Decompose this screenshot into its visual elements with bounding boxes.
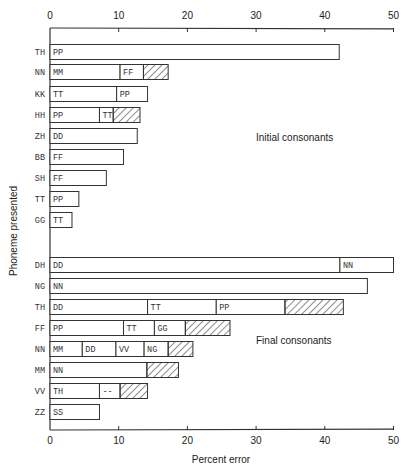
tick-label: 20 xyxy=(182,10,194,21)
segment-label: TT xyxy=(102,111,112,121)
row-label: ZH xyxy=(35,132,45,142)
stacked-bar-chart: 0102030405001020304050 THPPNNMMFFKKTTPPH… xyxy=(0,0,408,472)
segment-label: FF xyxy=(123,68,133,78)
segment-label: PP xyxy=(53,111,63,121)
tick-label: 50 xyxy=(388,435,400,446)
bar-row: ZHDD xyxy=(35,129,137,144)
segment-label: TH xyxy=(53,387,63,397)
bar-segment xyxy=(50,258,340,273)
bar-segment xyxy=(50,279,367,294)
segment-label: PP xyxy=(120,90,130,100)
tick-label: 50 xyxy=(388,10,400,21)
bar-segment xyxy=(50,45,339,60)
row-label: ZZ xyxy=(35,408,45,418)
segment-label: DD xyxy=(85,345,95,355)
hatched-segment xyxy=(185,321,230,336)
row-label: TH xyxy=(35,303,45,313)
segment-label: TT xyxy=(127,324,137,334)
segment-label: TT xyxy=(151,303,161,313)
row-label: KK xyxy=(35,90,46,100)
segment-label: NN xyxy=(53,366,63,376)
bars: THPPNNMMFFKKTTPPHHPPTTZHDDBBFFSHFFTTPPGG… xyxy=(35,45,394,420)
bar-row: TTPP xyxy=(35,192,79,207)
segment-label: VV xyxy=(119,345,130,355)
y-axis-title: Phoneme presented xyxy=(8,186,19,276)
row-label: VV xyxy=(35,387,46,397)
segment-label: PP xyxy=(53,195,63,205)
tick-label: 0 xyxy=(47,10,53,21)
tick-label: 10 xyxy=(113,10,125,21)
segment-label: FF xyxy=(53,174,63,184)
top-x-axis-line xyxy=(50,28,394,29)
tick-label: 0 xyxy=(47,435,53,446)
segment-label: GG xyxy=(157,324,167,334)
segment-label: NN xyxy=(53,282,63,292)
bar-row: THDDTTPP xyxy=(35,300,344,315)
tick-label: 40 xyxy=(319,435,331,446)
bottom-x-axis-line xyxy=(50,429,394,430)
hatched-segment xyxy=(147,363,179,378)
bar-row: BBFF xyxy=(35,150,124,165)
segment-label: PP xyxy=(53,48,63,58)
segment-label: NG xyxy=(147,345,157,355)
x-axis-title: Percent error xyxy=(192,454,251,465)
row-label: FF xyxy=(35,324,45,334)
bar-row: NNMMDDVVNG xyxy=(35,342,193,357)
tick-label: 20 xyxy=(182,435,194,446)
tick-label: 30 xyxy=(251,435,263,446)
row-label: MM xyxy=(35,366,45,376)
bar-row: GGTT xyxy=(35,213,72,228)
tick-label: 10 xyxy=(113,435,125,446)
row-label: TH xyxy=(35,48,45,58)
bar-row: NGNN xyxy=(35,279,368,294)
hatched-segment xyxy=(120,384,147,399)
hatched-segment xyxy=(285,300,343,315)
segment-label: TT xyxy=(53,216,63,226)
bar-segment xyxy=(50,300,148,315)
group-title: Final consonants xyxy=(256,335,332,346)
bar-row: THPP xyxy=(35,45,339,60)
segment-label: TT xyxy=(53,90,63,100)
segment-label: NN xyxy=(343,261,353,271)
segment-label: PP xyxy=(53,324,63,334)
row-label: NN xyxy=(35,68,45,78)
hatched-segment xyxy=(143,65,168,80)
segment-label: MM xyxy=(53,345,63,355)
bar-segment xyxy=(50,363,147,378)
bar-row: HHPPTT xyxy=(35,108,140,123)
segment-label: SS xyxy=(53,408,63,418)
tick-label: 30 xyxy=(251,10,263,21)
bar-row: FFPPTTGG xyxy=(35,321,230,336)
row-label: DH xyxy=(35,261,45,271)
bar-row: DHDDNN xyxy=(35,258,394,273)
segment-label: DD xyxy=(53,132,63,142)
row-label: GG xyxy=(35,216,45,226)
row-label: NN xyxy=(35,345,45,355)
row-label: SH xyxy=(35,174,45,184)
segment-label: DD xyxy=(53,303,63,313)
group-title: Initial consonants xyxy=(256,132,333,143)
hatched-segment xyxy=(168,342,193,357)
segment-label: DD xyxy=(53,261,63,271)
bar-row: ZZSS xyxy=(35,405,100,420)
segment-label: MM xyxy=(53,68,63,78)
bar-row: KKTTPP xyxy=(35,87,148,102)
segment-label: PP xyxy=(219,303,229,313)
row-label: TT xyxy=(35,195,45,205)
tick-label: 40 xyxy=(319,10,331,21)
bar-row: VVTH-- xyxy=(35,384,148,399)
bar-row: SHFF xyxy=(35,171,107,186)
row-label: BB xyxy=(35,153,45,163)
bar-row: NNMMFF xyxy=(35,65,168,80)
row-label: NG xyxy=(35,282,45,292)
bar-row: MMNN xyxy=(35,363,179,378)
hatched-segment xyxy=(113,108,140,123)
row-label: HH xyxy=(35,111,45,121)
segment-label: -- xyxy=(102,387,112,397)
segment-label: FF xyxy=(53,153,63,163)
